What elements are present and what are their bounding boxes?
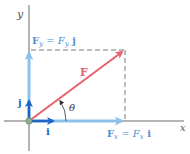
fx-label: Fx = Fx i [107,128,151,141]
j-label: j [17,97,22,108]
origin-point [26,118,32,124]
fy-label: Fy = Fy j [32,35,76,48]
f-label: F [80,66,88,79]
x-axis-label: x [180,122,186,133]
i-label: i [46,126,50,137]
theta-arc-icon [61,102,67,122]
force-components-diagram: y x Fy = Fy j Fx = Fx i F j i θ [0,0,190,154]
theta-label: θ [69,102,75,113]
y-axis-label: y [16,8,24,21]
f-vector [29,52,122,121]
